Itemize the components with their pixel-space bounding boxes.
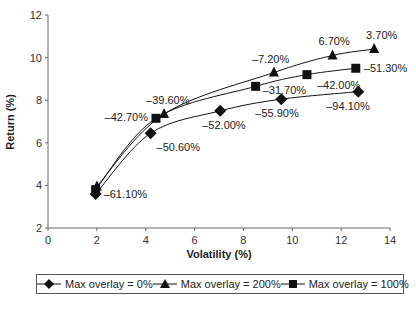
legend-label: Max overlay = 200% bbox=[181, 278, 281, 290]
legend: Max overlay = 0% Max overlay = 200% Max … bbox=[36, 274, 404, 294]
y-tick-label: 12 bbox=[30, 9, 42, 21]
data-point-label: –7.20% bbox=[252, 53, 290, 65]
data-point-label: –31.70% bbox=[263, 84, 307, 96]
series-line bbox=[96, 92, 359, 194]
square-marker-icon bbox=[281, 278, 305, 290]
data-point-label: –94.10% bbox=[326, 100, 370, 112]
data-point-label: 3.70% bbox=[366, 29, 397, 41]
y-tick-label: 2 bbox=[36, 222, 42, 234]
legend-item-overlay-0: Max overlay = 0% bbox=[37, 278, 153, 290]
y-tick-label: 8 bbox=[36, 94, 42, 106]
data-point-label: –55.90% bbox=[255, 107, 299, 119]
x-tick-label: 12 bbox=[335, 234, 347, 246]
data-point-label: –52.00% bbox=[202, 119, 246, 131]
data-labels: –61.10%–50.60%–52.00%–55.90%–94.10%–39.6… bbox=[104, 29, 408, 200]
square-marker-icon bbox=[251, 82, 260, 91]
diamond-marker-icon bbox=[145, 127, 157, 139]
data-point-label: –39.60% bbox=[146, 94, 190, 106]
y-axis: 24681012 bbox=[30, 9, 48, 234]
y-tick-label: 6 bbox=[36, 137, 42, 149]
triangle-marker-icon bbox=[153, 278, 177, 290]
legend-label: Max overlay = 0% bbox=[65, 278, 153, 290]
x-tick-label: 2 bbox=[94, 234, 100, 246]
triangle-marker-icon bbox=[159, 108, 169, 118]
x-tick-label: 14 bbox=[384, 234, 396, 246]
diamond-marker-icon bbox=[37, 278, 61, 290]
x-axis: 02468101214 bbox=[45, 228, 396, 246]
data-point-label: –50.60% bbox=[157, 141, 201, 153]
legend-item-overlay-100: Max overlay = 100% bbox=[281, 278, 409, 290]
square-marker-icon bbox=[351, 64, 360, 73]
x-tick-label: 10 bbox=[286, 234, 298, 246]
triangle-marker-icon bbox=[369, 43, 379, 53]
x-tick-label: 4 bbox=[143, 234, 149, 246]
diamond-marker-icon bbox=[214, 105, 226, 117]
x-tick-label: 8 bbox=[240, 234, 246, 246]
data-point-label: –51.30% bbox=[364, 62, 408, 74]
chart-svg: 24681012 02468101214 Return (%) Volatili… bbox=[0, 0, 416, 309]
x-tick-label: 6 bbox=[192, 234, 198, 246]
data-point-label: –42.00% bbox=[317, 79, 361, 91]
x-tick-label: 0 bbox=[45, 234, 51, 246]
data-point-label: –42.70% bbox=[105, 111, 149, 123]
data-point-label: 6.70% bbox=[319, 35, 350, 47]
x-axis-title: Volatility (%) bbox=[186, 248, 252, 260]
legend-label: Max overlay = 100% bbox=[309, 278, 409, 290]
square-marker-icon bbox=[302, 70, 311, 79]
data-point-label: –61.10% bbox=[104, 188, 148, 200]
y-tick-label: 4 bbox=[36, 179, 42, 191]
y-tick-label: 10 bbox=[30, 52, 42, 64]
legend-item-overlay-200: Max overlay = 200% bbox=[153, 278, 281, 290]
square-marker-icon bbox=[91, 185, 100, 194]
square-marker-icon bbox=[151, 114, 160, 123]
y-axis-title: Return (%) bbox=[4, 94, 16, 150]
